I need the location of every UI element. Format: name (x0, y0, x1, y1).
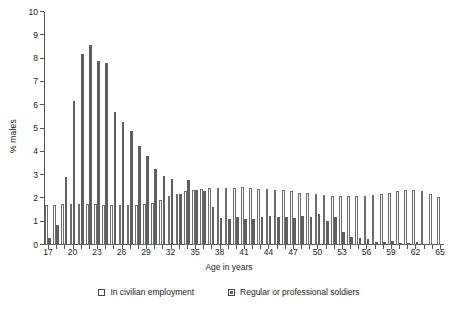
bar-group (77, 12, 85, 245)
x-axis-tick (375, 245, 376, 249)
bar-soldiers (261, 217, 264, 245)
y-axis-tick-label: 3 (12, 171, 38, 180)
x-axis-tick (179, 245, 180, 249)
x-axis-tick (130, 245, 131, 249)
bar-soldiers (65, 177, 68, 245)
bar-soldiers (130, 131, 133, 245)
bar-group (281, 12, 289, 245)
x-axis-tick-label: 47 (283, 248, 303, 257)
y-axis-tick-label: 6 (12, 101, 38, 110)
bar-soldiers (407, 243, 410, 245)
bar-soldiers (440, 244, 443, 245)
bar-soldiers (301, 216, 304, 245)
bar-soldiers (138, 146, 141, 245)
bar-soldiers (399, 243, 402, 245)
y-axis-tick-label: 4 (12, 147, 38, 156)
bar-group (313, 12, 321, 245)
bar-group (403, 12, 411, 245)
bar-group (117, 12, 125, 245)
y-axis-tick-label: 0 (12, 241, 38, 250)
y-axis-tick-label: 7 (12, 77, 38, 86)
bar-group (240, 12, 248, 245)
legend-label-civilian: In civilian employment (110, 287, 194, 297)
y-axis-tick-label: 2 (12, 194, 38, 203)
x-axis-tick-label: 20 (63, 248, 83, 257)
bar-soldiers (203, 191, 206, 245)
bar-group (150, 12, 158, 245)
bar-groups (44, 12, 444, 245)
bar-group (362, 12, 370, 245)
x-axis-tick (326, 245, 327, 249)
bar-group (85, 12, 93, 245)
bar-soldiers (359, 238, 362, 245)
bar-group (428, 12, 436, 245)
bar-group (387, 12, 395, 245)
legend-label-soldiers: Regular or professional soldiers (240, 287, 360, 297)
bar-soldiers (293, 218, 296, 245)
bar-soldiers (122, 122, 125, 245)
bar-group (183, 12, 191, 245)
bar-group (420, 12, 428, 245)
bar-civilian (404, 190, 407, 245)
bar-soldiers (277, 217, 280, 245)
bar-group (354, 12, 362, 245)
bar-group (109, 12, 117, 245)
bar-soldiers (220, 218, 223, 245)
bar-group (158, 12, 166, 245)
bar-group (289, 12, 297, 245)
bar-group (175, 12, 183, 245)
x-axis-tick-label: 44 (258, 248, 278, 257)
bar-soldiers (73, 101, 76, 245)
bar-soldiers (350, 237, 353, 245)
bar-group (232, 12, 240, 245)
bar-civilian (364, 196, 367, 245)
x-axis-tick (56, 245, 57, 249)
bar-group (93, 12, 101, 245)
bar-group (44, 12, 52, 245)
x-axis-tick-label: 50 (307, 248, 327, 257)
bar-soldiers (48, 238, 51, 245)
y-axis-tick-label: 9 (12, 31, 38, 40)
x-axis-label: Age in years (0, 262, 458, 272)
x-axis-tick-label: 62 (405, 248, 425, 257)
y-axis-tick-label: 5 (12, 124, 38, 133)
bar-soldiers (89, 45, 92, 245)
x-axis-tick-label: 35 (185, 248, 205, 257)
bar-group (142, 12, 150, 245)
bar-group (256, 12, 264, 245)
bar-civilian (380, 194, 383, 245)
bar-group (134, 12, 142, 245)
bar-soldiers (146, 156, 149, 245)
bar-group (305, 12, 313, 245)
bar-soldiers (187, 180, 190, 245)
bar-soldiers (252, 219, 255, 245)
bar-group (297, 12, 305, 245)
x-axis-tick-label: 23 (87, 248, 107, 257)
x-axis-tick-label: 56 (356, 248, 376, 257)
bar-group (199, 12, 207, 245)
bar-soldiers (154, 169, 157, 245)
y-axis-tick-label: 1 (12, 217, 38, 226)
x-axis-tick (154, 245, 155, 249)
bar-group (379, 12, 387, 245)
bar-soldiers (383, 242, 386, 245)
x-axis-tick (105, 245, 106, 249)
bar-group (101, 12, 109, 245)
bar-soldiers (342, 232, 345, 245)
bar-soldiers (244, 219, 247, 245)
bar-group (52, 12, 60, 245)
bar-soldiers (81, 54, 84, 245)
x-axis-tick (301, 245, 302, 249)
x-axis-tick-label: 29 (136, 248, 156, 257)
bar-soldiers (179, 194, 182, 245)
bar-soldiers (212, 207, 215, 245)
x-axis-tick (252, 245, 253, 249)
bar-soldiers (391, 241, 394, 245)
x-axis-tick (81, 245, 82, 249)
bar-group (191, 12, 199, 245)
bar-civilian (421, 191, 424, 245)
bar-group (411, 12, 419, 245)
bar-group (436, 12, 444, 245)
y-axis-tick-label: 10 (12, 8, 38, 17)
bar-group (264, 12, 272, 245)
